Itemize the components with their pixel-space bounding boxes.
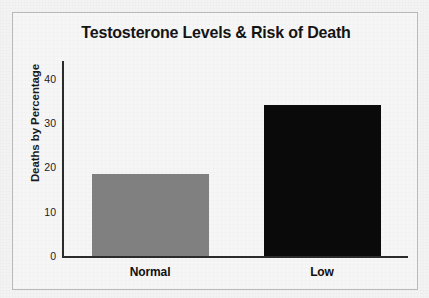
y-tick-label: 20 xyxy=(44,161,56,173)
scanned-page-background: Testosterone Levels & Risk of Death Deat… xyxy=(0,0,429,298)
chart-frame: Testosterone Levels & Risk of Death Deat… xyxy=(12,12,418,290)
y-tick-label: 30 xyxy=(44,117,56,129)
y-axis-title: Deaths by Percentage xyxy=(29,28,41,218)
y-axis-tick-labels: 010203040 xyxy=(62,61,63,256)
x-tick-label-normal: Normal xyxy=(92,265,209,279)
x-tick-label-low: Low xyxy=(264,265,381,279)
y-tick-label: 40 xyxy=(44,73,56,85)
y-tick-label: 10 xyxy=(44,206,56,218)
y-tick-label: 0 xyxy=(50,250,56,262)
x-axis-tick-labels: NormalLow xyxy=(64,13,408,291)
